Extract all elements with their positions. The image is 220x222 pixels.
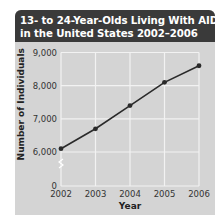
y-axis-title: Number of Individuals [16,48,26,160]
x-tick-label: 2005 [154,189,176,199]
y-tick-label: 8,000 [33,81,57,91]
y-tick-label: 9,000 [33,48,57,58]
axis-break-icon [59,159,63,168]
line-chart: 06,0007,0008,0009,0002002200320042005200… [0,0,220,222]
x-tick-label: 2006 [188,189,210,199]
data-point-marker [93,126,98,131]
x-tick-label: 2002 [50,189,72,199]
y-tick-label: 6,000 [33,147,57,157]
y-tick-label: 7,000 [33,114,57,124]
x-tick-label: 2004 [119,189,141,199]
data-point-marker [162,80,167,85]
x-tick-label: 2003 [85,189,107,199]
data-point-marker [197,63,202,68]
data-point-marker [128,103,133,108]
data-point-marker [59,146,64,151]
x-axis-title: Year [118,201,142,211]
